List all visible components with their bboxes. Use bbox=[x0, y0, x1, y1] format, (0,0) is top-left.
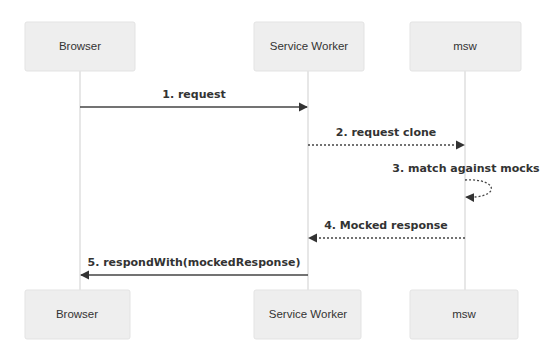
message-2: 2. request clone bbox=[308, 126, 464, 145]
message-5: 5. respondWith(mockedResponse) bbox=[81, 256, 308, 275]
actor-label: msw bbox=[452, 308, 476, 320]
sequence-diagram: Browser Service Worker msw 1. request 2.… bbox=[0, 0, 546, 359]
actor-browser-top: Browser bbox=[25, 22, 135, 71]
message-label: 3. match against mocks bbox=[392, 162, 540, 175]
message-4: 4. Mocked response bbox=[309, 219, 465, 238]
actor-service-worker-top: Service Worker bbox=[254, 22, 364, 71]
actor-msw-top: msw bbox=[410, 22, 521, 71]
actor-label: Service Worker bbox=[269, 308, 348, 320]
message-1: 1. request bbox=[80, 88, 307, 107]
actor-service-worker-bottom: Service Worker bbox=[254, 290, 361, 339]
actor-label: msw bbox=[453, 40, 477, 52]
actor-label: Service Worker bbox=[270, 40, 349, 52]
message-label: 2. request clone bbox=[336, 126, 437, 139]
message-label: 1. request bbox=[162, 88, 226, 101]
message-label: 4. Mocked response bbox=[324, 219, 448, 232]
actor-label: Browser bbox=[59, 40, 101, 52]
actor-label: Browser bbox=[56, 308, 98, 320]
actor-msw-bottom: msw bbox=[410, 290, 518, 339]
message-3: 3. match against mocks bbox=[392, 162, 540, 197]
actor-browser-bottom: Browser bbox=[25, 290, 130, 339]
message-label: 5. respondWith(mockedResponse) bbox=[88, 256, 301, 269]
